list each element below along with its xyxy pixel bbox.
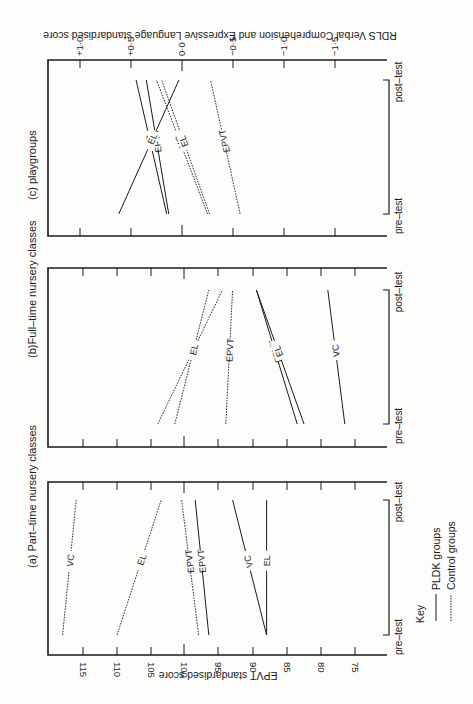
rdls-tick-label: 0·0	[176, 42, 187, 56]
legend-pldk-label: PLDK groups	[430, 528, 442, 590]
series-label: EPVT	[217, 128, 232, 154]
legend: Key PLDK groups Control groups	[414, 521, 457, 623]
panel-a: pre–testpost–test(a) Part–time nursery c…	[26, 424, 404, 655]
legend-control-label: Control groups	[445, 521, 457, 590]
time-bracket	[383, 500, 389, 635]
series-label: EL	[262, 555, 272, 566]
panel-b: pre–testpost–test(b)Full–time nursery cl…	[26, 220, 404, 447]
panel-title: (a) Part–time nursery classes	[26, 424, 38, 568]
epvt-tick-label: 115	[78, 662, 89, 677]
legend-title: Key	[414, 604, 426, 623]
time-bracket	[383, 80, 389, 214]
pre-test-label: pre–test	[393, 198, 404, 234]
panel-title: (c) playgroups	[26, 130, 38, 200]
panel-frame	[48, 482, 387, 655]
panel-title: (b)Full–time nursery classes	[26, 220, 38, 358]
series-label: VC	[65, 553, 76, 567]
epvt-tick-label: 80	[316, 662, 327, 673]
post-test-label: post–test	[393, 481, 404, 522]
panel-c: pre–testpost–test(c) playgroupsVCEPVTELV…	[26, 60, 404, 236]
series-label: VC	[330, 343, 342, 357]
series-label: EPVT	[196, 548, 208, 573]
pre-test-label: pre–test	[393, 619, 404, 655]
panel-frame	[48, 60, 387, 236]
epvt-axis-label: EPVT standardised score	[158, 670, 277, 682]
pre-test-label: pre–test	[393, 408, 404, 444]
figure: pre–testpost–test(a) Part–time nursery c…	[0, 0, 473, 704]
time-bracket	[383, 290, 389, 424]
epvt-tick-label: 85	[282, 662, 293, 673]
epvt-tick-label: 75	[350, 662, 361, 673]
epvt-tick-label: 105	[146, 662, 157, 678]
rdls-axis-label: RDLS Verbal Comprehension and Expressive…	[43, 30, 397, 42]
epvt-tick-label: 110	[112, 662, 123, 677]
series-label: EPVT	[224, 338, 235, 362]
series-label: EPVT	[183, 548, 196, 573]
post-test-label: post–test	[393, 271, 404, 312]
post-test-label: post–test	[393, 61, 404, 102]
